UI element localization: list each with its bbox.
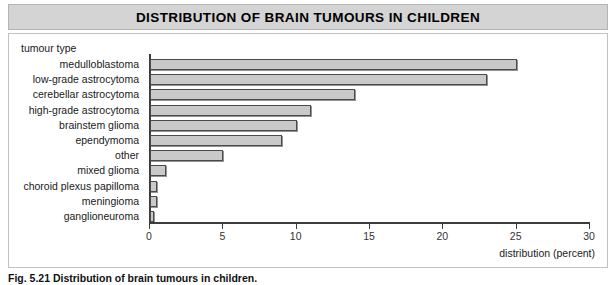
category-label-meningioma: meningioma: [82, 196, 139, 207]
x-tick-label-15: 15: [363, 230, 375, 242]
category-label-choroid-plexus-papilloma: choroid plexus papilloma: [23, 181, 139, 192]
page-title: DISTRIBUTION OF BRAIN TUMOURS IN CHILDRE…: [136, 10, 480, 25]
x-tick-label-25: 25: [510, 230, 522, 242]
bar-fill: [150, 59, 517, 70]
x-tick-25: [516, 224, 517, 229]
bar-fill: [150, 196, 157, 207]
bar-brainstem-glioma: [150, 120, 297, 131]
bar-low-grade-astrocytoma: [150, 74, 487, 85]
x-tick-label-30: 30: [583, 230, 595, 242]
category-label-low-grade-astrocytoma: low-grade astrocytoma: [33, 74, 139, 85]
bar-fill: [150, 211, 154, 222]
bar-ependymoma: [150, 135, 282, 146]
x-tick-0: [149, 224, 150, 229]
bar-cerebellar-astrocytoma: [150, 89, 355, 100]
x-tick-10: [296, 224, 297, 229]
x-tick-5: [222, 224, 223, 229]
bar-fill: [150, 120, 297, 131]
x-tick-label-20: 20: [436, 230, 448, 242]
category-label-brainstem-glioma: brainstem glioma: [59, 120, 139, 131]
category-label-ependymoma: ependymoma: [75, 135, 139, 146]
x-tick-label-5: 5: [219, 230, 225, 242]
chart-panel: tumour type 051015202530 medulloblastoma…: [8, 33, 608, 268]
bar-fill: [150, 74, 487, 85]
bar-medulloblastoma: [150, 59, 517, 70]
category-label-cerebellar-astrocytoma: cerebellar astrocytoma: [33, 89, 139, 100]
bar-ganglioneuroma: [150, 211, 154, 222]
category-label-other: other: [115, 150, 139, 161]
x-tick-15: [369, 224, 370, 229]
x-axis-title: distribution (percent): [499, 247, 595, 259]
bar-mixed-glioma: [150, 165, 166, 176]
x-tick-30: [589, 224, 590, 229]
category-label-high-grade-astrocytoma: high-grade astrocytoma: [29, 105, 139, 116]
plot-area: 051015202530: [149, 34, 589, 269]
category-label-mixed-glioma: mixed glioma: [77, 165, 139, 176]
y-axis-title: tumour type: [21, 42, 76, 54]
x-tick-label-10: 10: [290, 230, 302, 242]
bar-other: [150, 150, 223, 161]
bar-fill: [150, 150, 223, 161]
bar-fill: [150, 165, 166, 176]
bar-meningioma: [150, 196, 157, 207]
category-label-ganglioneuroma: ganglioneuroma: [64, 211, 139, 222]
x-tick-20: [442, 224, 443, 229]
bar-fill: [150, 89, 355, 100]
bar-fill: [150, 135, 282, 146]
figure-container: DISTRIBUTION OF BRAIN TUMOURS IN CHILDRE…: [0, 0, 616, 285]
bar-fill: [150, 105, 311, 116]
bar-high-grade-astrocytoma: [150, 105, 311, 116]
chart-title-banner: DISTRIBUTION OF BRAIN TUMOURS IN CHILDRE…: [8, 4, 608, 30]
x-tick-label-0: 0: [146, 230, 152, 242]
bar-choroid-plexus-papilloma: [150, 181, 157, 192]
bar-fill: [150, 181, 157, 192]
category-label-medulloblastoma: medulloblastoma: [60, 59, 139, 70]
figure-caption: Fig. 5.21 Distribution of brain tumours …: [8, 272, 608, 284]
